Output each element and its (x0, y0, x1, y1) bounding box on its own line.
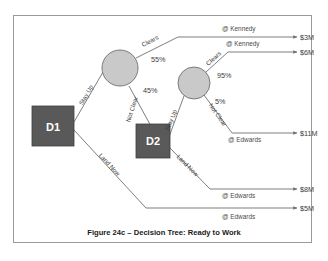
outcome-airport-3: @ Edwards (228, 136, 261, 143)
outcome-payoff-3: $11M (300, 129, 317, 138)
branch-label-d1-stay-up: Stay Up (77, 83, 94, 106)
outcome-payoff-1: $3M (300, 33, 314, 42)
outcome-payoff-5: $5M (300, 204, 314, 213)
outcome-payoff-4: $8M (300, 185, 314, 194)
decision-node-d2-label: D2 (146, 135, 160, 147)
probability-c2-not-clear: 5% (215, 97, 226, 106)
outcome-airport-2: @ Kennedy (226, 40, 260, 48)
outcome-payoff-2: $6M (300, 48, 314, 57)
decision-tree-canvas: D1 D2 Stay Up Land Now Clears Not Clear … (0, 0, 328, 261)
probability-c1-not-clear: 45% (143, 86, 158, 95)
branch-label-d2-land-now: Land Now (175, 153, 200, 178)
branch-label-c1-not-clear: Not Clear (124, 96, 139, 123)
chance-node-c1 (102, 50, 138, 86)
decision-tree-figure: D1 D2 Stay Up Land Now Clears Not Clear … (0, 0, 328, 261)
decision-node-d1-label: D1 (46, 121, 60, 133)
outcome-airport-1: @ Kennedy (222, 25, 256, 33)
chance-node-c2 (178, 67, 210, 99)
branch-label-c2-clears: Clears (204, 50, 222, 67)
branch-label-d2-stay-up: Stay Up (163, 108, 178, 132)
probability-c2-clears: 95% (217, 71, 232, 80)
branch-label-d1-land-now: Land Now (98, 152, 122, 178)
figure-caption: Figure 24c – Decision Tree: Ready to Wor… (87, 228, 241, 237)
probability-c1-clears: 55% (151, 55, 166, 64)
branch-label-c1-clears: Clears (140, 34, 159, 48)
outcome-airport-5: @ Edwards (222, 213, 255, 220)
outcome-airport-4: @ Edwards (222, 192, 255, 199)
